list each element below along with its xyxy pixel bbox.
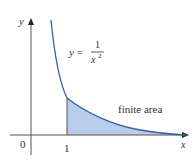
equation-lhs: y =	[68, 46, 83, 58]
chart: y x 0 1 y = 1 x 2 finite area	[0, 0, 195, 163]
tick-label-1: 1	[64, 142, 70, 154]
tick-label-0: 0	[20, 138, 26, 150]
equation-numerator: 1	[95, 39, 100, 50]
x-axis-label: x	[180, 139, 186, 150]
equation-exponent: 2	[98, 52, 102, 60]
y-axis-label: y	[18, 15, 24, 27]
y-axis-arrow-icon	[28, 18, 34, 25]
equation-denominator: x	[90, 54, 96, 65]
finite-area-annotation: finite area	[118, 103, 162, 115]
